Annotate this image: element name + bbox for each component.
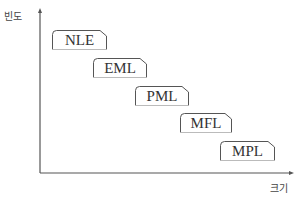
x-axis-label: 크기 [270,180,288,195]
box-mfl: MFL [180,113,232,133]
box-mpl: MPL [220,141,275,161]
x-axis-arrow-icon [289,171,294,175]
box-label: MFL [191,115,222,132]
box-label: EML [104,60,136,77]
box-label: NLE [65,32,94,49]
box-eml: EML [93,58,147,78]
box-nle: NLE [52,30,107,50]
y-axis-label: 빈도 [4,8,22,23]
y-axis-arrow-icon [38,8,42,13]
box-label: PML [147,88,178,105]
box-label: MPL [232,143,263,160]
box-pml: PML [135,86,189,106]
